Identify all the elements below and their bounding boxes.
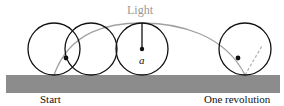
wheel-end bbox=[219, 23, 271, 75]
start-label: Start bbox=[40, 93, 61, 105]
wheel-second bbox=[65, 23, 117, 75]
light-dot-end bbox=[236, 56, 241, 61]
radius-label: a bbox=[139, 54, 145, 66]
center-dot bbox=[140, 47, 144, 51]
light-dot-second bbox=[64, 56, 69, 61]
one-revolution-label: One revolution bbox=[204, 93, 270, 105]
cycloid-curve bbox=[54, 23, 245, 75]
light-label: Light bbox=[127, 3, 153, 18]
ground-strip bbox=[6, 75, 280, 93]
